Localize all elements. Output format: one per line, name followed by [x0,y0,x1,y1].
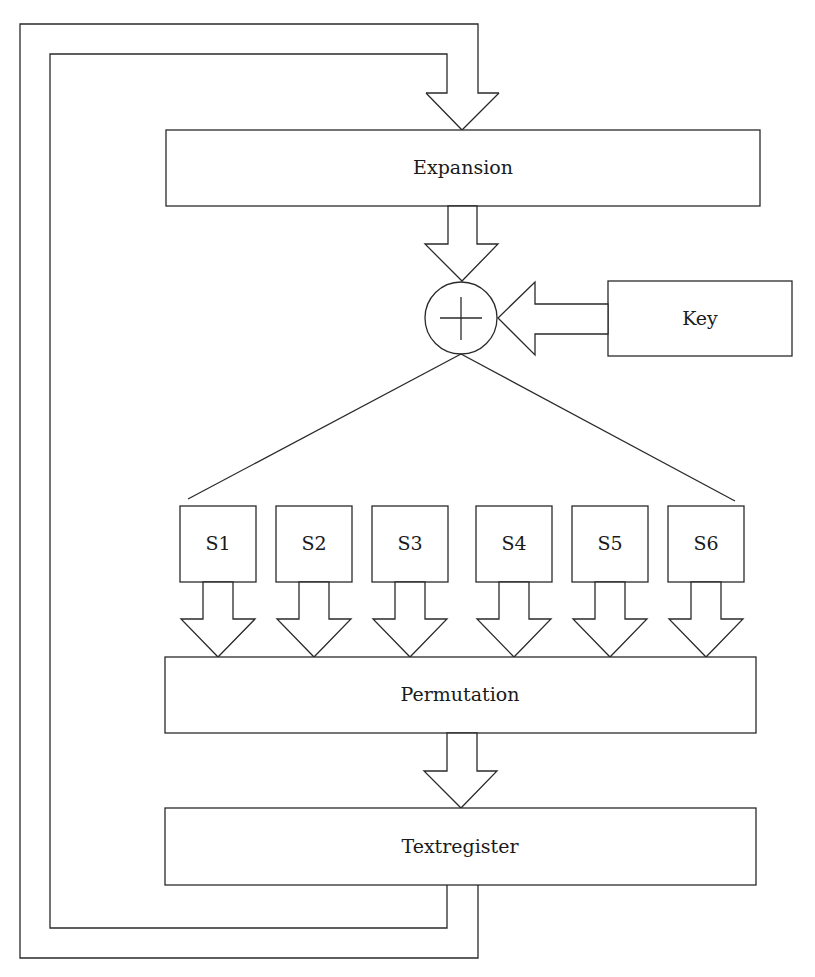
fanout-right-line [461,354,735,501]
sbox-label: S1 [205,532,230,554]
textregister-label: Textregister [401,835,519,857]
s5-to-permutation-arrow [573,582,647,657]
des-round-diagram: Expansion Key S1 S2 S3 S4 S5 S6 [0,0,815,977]
sbox-s5: S5 [572,506,648,582]
sbox-label: S4 [501,532,526,554]
sbox-s6: S6 [668,506,744,582]
key-block: Key [608,281,792,356]
sbox-label: S5 [597,532,622,554]
xor-operator [425,282,497,354]
key-label: Key [682,307,718,329]
permutation-to-textregister-arrow [424,733,497,808]
s4-to-permutation-arrow [477,582,551,657]
sbox-label: S2 [301,532,326,554]
sbox-s1: S1 [180,506,256,582]
permutation-block: Permutation [165,657,756,733]
sbox-s4: S4 [476,506,552,582]
sbox-s2: S2 [276,506,352,582]
expansion-label: Expansion [413,156,513,178]
key-to-xor-arrow [498,282,608,355]
expansion-block: Expansion [166,130,760,206]
s6-to-permutation-arrow [669,582,743,657]
sbox-label: S6 [693,532,718,554]
expansion-to-xor-arrow [425,206,498,281]
feedback-arrowhead [426,93,499,130]
s1-to-permutation-arrow [181,582,255,657]
fanout-left-line [188,354,461,499]
sbox-label: S3 [397,532,422,554]
s2-to-permutation-arrow [277,582,351,657]
s3-to-permutation-arrow [373,582,447,657]
permutation-label: Permutation [401,683,520,705]
textregister-block: Textregister [165,808,756,885]
sbox-s3: S3 [372,506,448,582]
